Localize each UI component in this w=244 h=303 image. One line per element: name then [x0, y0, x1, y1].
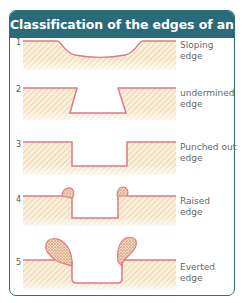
row-number-2: 2	[16, 85, 21, 94]
row-number-4: 4	[16, 195, 21, 204]
label-line: Everted	[180, 262, 240, 273]
label-line: edge	[180, 273, 240, 284]
label-line: Raised	[180, 196, 240, 207]
label-line: undermined	[180, 88, 240, 99]
row-label-3: Punched out edge	[180, 142, 240, 164]
diagram-undermined-edge	[23, 88, 176, 120]
label-line: edge	[180, 99, 240, 110]
row-label-5: Everted edge	[180, 262, 240, 284]
row-label-2: undermined edge	[180, 88, 240, 110]
label-line: edge	[180, 51, 240, 62]
label-line: edge	[180, 153, 240, 164]
row-number-1: 1	[16, 38, 21, 47]
label-line: edge	[180, 207, 240, 218]
row-number-3: 3	[16, 140, 21, 149]
label-line: Sloping	[180, 40, 240, 51]
label-line: Punched out	[180, 142, 240, 153]
diagram-sloping-edge	[23, 41, 176, 70]
row-label-1: Sloping edge	[180, 40, 240, 62]
diagram-punched-out-edge	[23, 142, 176, 175]
row-label-4: Raised edge	[180, 196, 240, 218]
diagram-raised-edge	[23, 187, 176, 226]
row-number-5: 5	[16, 258, 21, 267]
diagram-everted-edge	[23, 237, 176, 290]
